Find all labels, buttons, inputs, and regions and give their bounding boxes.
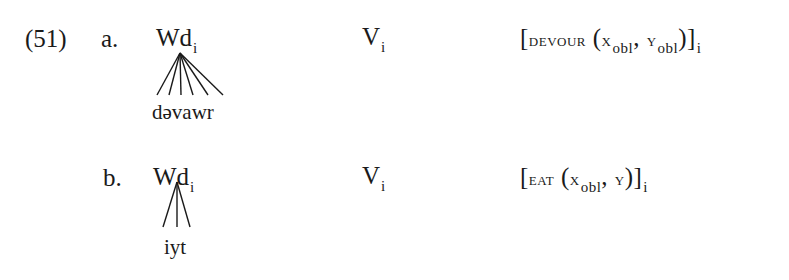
- row-b-branches: [163, 182, 190, 227]
- tree-branches: [0, 0, 789, 280]
- row-a-branches: [157, 53, 223, 95]
